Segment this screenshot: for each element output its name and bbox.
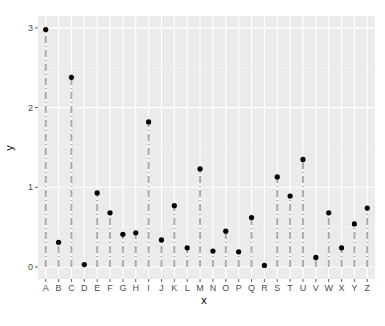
x-tick-label: D <box>81 283 88 293</box>
lollipop-point <box>120 232 125 237</box>
lollipop-point <box>56 240 61 245</box>
x-tick-label: B <box>56 283 62 293</box>
lollipop-point <box>262 263 267 268</box>
lollipop-chart: 0123 ABCDEFGHIJKLMNOPQRSTUVWXYZ x y <box>0 0 385 326</box>
x-tick-label: J <box>159 283 164 293</box>
y-tick-label: 2 <box>28 103 33 113</box>
y-axis-title: y <box>3 145 15 151</box>
x-tick-label: X <box>339 283 345 293</box>
x-tick-label: W <box>324 283 333 293</box>
x-tick-label: E <box>94 283 100 293</box>
lollipop-point <box>43 27 48 32</box>
x-tick-label: Y <box>351 283 357 293</box>
x-tick-label: G <box>119 283 126 293</box>
x-tick-label: O <box>222 283 229 293</box>
x-tick-label: U <box>300 283 307 293</box>
lollipop-point <box>210 248 215 253</box>
x-tick-label: Q <box>248 283 255 293</box>
lollipop-point <box>365 205 370 210</box>
x-tick-label: T <box>287 283 293 293</box>
x-tick-label: A <box>43 283 49 293</box>
x-tick-label: M <box>196 283 204 293</box>
x-tick-label: N <box>210 283 217 293</box>
x-tick-label: C <box>68 283 75 293</box>
lollipop-point <box>223 229 228 234</box>
lollipop-point <box>236 249 241 254</box>
lollipop-point <box>146 119 151 124</box>
lollipop-point <box>197 166 202 171</box>
x-tick-label: K <box>171 283 177 293</box>
y-tick-label: 3 <box>28 23 33 33</box>
lollipop-point <box>249 215 254 220</box>
x-axis: ABCDEFGHIJKLMNOPQRSTUVWXYZ <box>43 279 371 293</box>
x-tick-label: S <box>274 283 280 293</box>
lollipop-point <box>275 174 280 179</box>
lollipop-point <box>326 210 331 215</box>
lollipop-point <box>185 245 190 250</box>
x-tick-label: Z <box>365 283 371 293</box>
lollipop-point <box>82 262 87 267</box>
x-tick-label: L <box>185 283 190 293</box>
lollipop-point <box>300 157 305 162</box>
lollipop-point <box>313 255 318 260</box>
x-tick-label: F <box>107 283 113 293</box>
x-tick-label: R <box>261 283 268 293</box>
lollipop-point <box>133 230 138 235</box>
lollipop-point <box>95 190 100 195</box>
y-tick-label: 1 <box>28 182 33 192</box>
lollipop-point <box>352 221 357 226</box>
x-tick-label: V <box>313 283 319 293</box>
lollipop-point <box>69 75 74 80</box>
y-tick-label: 0 <box>28 262 33 272</box>
x-tick-label: I <box>147 283 150 293</box>
lollipop-point <box>339 245 344 250</box>
x-tick-label: P <box>236 283 242 293</box>
lollipop-point <box>159 237 164 242</box>
lollipop-point <box>288 193 293 198</box>
lollipop-point <box>107 210 112 215</box>
x-tick-label: H <box>133 283 140 293</box>
x-axis-title: x <box>201 294 207 306</box>
lollipop-point <box>172 203 177 208</box>
y-axis: 0123 <box>28 23 38 272</box>
